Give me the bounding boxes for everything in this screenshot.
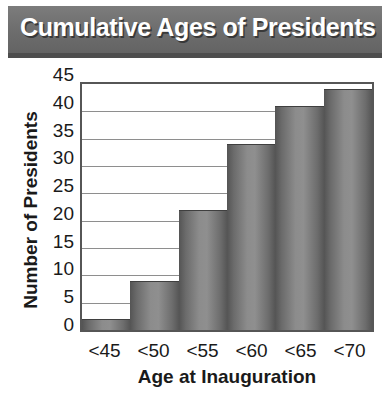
bar-slot bbox=[179, 84, 227, 330]
bar-slot bbox=[227, 84, 275, 330]
chart-title: Cumulative Ages of Presidents bbox=[20, 13, 376, 42]
x-axis-tick-label: <55 bbox=[178, 340, 227, 362]
y-axis-tick-labels: 051015202530354045 bbox=[36, 74, 74, 324]
y-axis-tick-label: 5 bbox=[63, 287, 74, 306]
y-axis-tick-label: 45 bbox=[53, 65, 74, 84]
bar[interactable] bbox=[275, 106, 323, 330]
y-axis-tick-label: 0 bbox=[63, 315, 74, 334]
y-axis-tick-label: 15 bbox=[53, 231, 74, 250]
bar[interactable] bbox=[130, 281, 178, 330]
chart-title-banner: Cumulative Ages of Presidents bbox=[8, 6, 382, 58]
bar[interactable] bbox=[179, 210, 227, 330]
x-axis-tick-label: <50 bbox=[129, 340, 178, 362]
x-axis-title: Age at Inauguration bbox=[80, 366, 374, 388]
y-axis-tick-label: 40 bbox=[53, 92, 74, 111]
plot-area bbox=[80, 82, 374, 332]
bars-layer bbox=[82, 84, 372, 330]
bar[interactable] bbox=[227, 144, 275, 330]
x-axis-tick-label: <70 bbox=[325, 340, 374, 362]
x-axis-tick-labels: <45<50<55<60<65<70 bbox=[80, 340, 374, 362]
y-axis-tick-label: 20 bbox=[53, 203, 74, 222]
bar[interactable] bbox=[82, 319, 130, 330]
bar-slot bbox=[275, 84, 323, 330]
x-axis-tick-label: <60 bbox=[227, 340, 276, 362]
x-axis-tick-label: <65 bbox=[276, 340, 325, 362]
y-axis-tick-label: 25 bbox=[53, 176, 74, 195]
y-axis-tick-label: 10 bbox=[53, 259, 74, 278]
bar-slot bbox=[82, 84, 130, 330]
y-axis-tick-label: 30 bbox=[53, 148, 74, 167]
bar-slot bbox=[130, 84, 178, 330]
bar[interactable] bbox=[324, 89, 372, 330]
x-axis-tick-label: <45 bbox=[80, 340, 129, 362]
bar-slot bbox=[324, 84, 372, 330]
chart-body: Number of Presidents 051015202530354045 … bbox=[8, 64, 382, 394]
y-axis-tick-label: 35 bbox=[53, 120, 74, 139]
cumulative-ages-chart-figure: Cumulative Ages of Presidents Number of … bbox=[0, 0, 382, 400]
